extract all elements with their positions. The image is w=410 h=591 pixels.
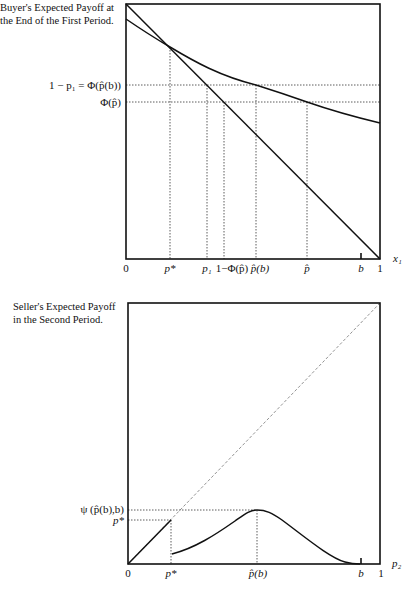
top-x-label-one-minus-phi: 1−Φ(p̂) (216, 262, 249, 275)
top-x-axis-label: x₁ (392, 252, 402, 264)
bottom-x-label-phat-b: p̂(b) (248, 567, 268, 580)
top-x-label-phat: p̂ (303, 262, 310, 274)
top-x-label-b: b (358, 262, 364, 274)
top-x-label-phat-b: p̂(b) (250, 262, 270, 275)
bottom-x-label-1: 1 (378, 567, 384, 579)
top-x-label-p1: p₁ (201, 262, 212, 274)
bottom-chart: ψ (p̂(b),b) p* 0 p* p̂(b) b 1 p₂ (80, 303, 401, 580)
bottom-x-label-0: 0 (125, 567, 131, 579)
bottom-x-label-b: b (358, 567, 364, 579)
figure: 1 − p₁ = Φ(p̂(b)) Φ(p̂) 0 p* p₁ 1−Φ(p̂) … (0, 0, 410, 591)
psi-curve (172, 510, 360, 564)
phi-curve (126, 19, 380, 123)
top-y-label-2: Φ(p̂) (100, 96, 121, 109)
top-y-label-1: 1 − p₁ = Φ(p̂(b)) (49, 79, 121, 92)
line-one-minus-x1 (126, 4, 380, 259)
linear-payoff-segment (128, 520, 171, 564)
top-chart: 1 − p₁ = Φ(p̂(b)) Φ(p̂) 0 p* p₁ 1−Φ(p̂) … (49, 4, 402, 275)
top-x-label-pstar: p* (164, 262, 177, 274)
bottom-x-axis-label: p₂ (391, 557, 402, 569)
top-x-label-0: 0 (123, 262, 129, 274)
bottom-y-label-pstar: p* (112, 514, 125, 526)
top-x-label-1: 1 (377, 262, 383, 274)
bottom-x-label-pstar: p* (165, 567, 178, 579)
